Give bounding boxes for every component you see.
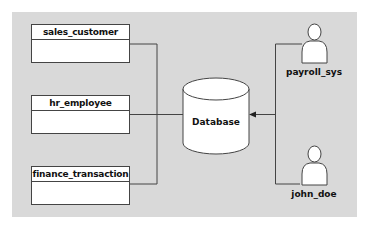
database-top-icon [183,78,249,100]
left-connectors [130,44,183,184]
table-title: finance_transaction [32,167,129,182]
right-connectors [254,44,302,184]
table-hr-employee[interactable]: hr_employee [31,95,130,134]
table-sales-customer[interactable]: sales_customer [31,24,130,63]
actor-label-payroll-sys: payroll_sys [286,67,342,77]
database-label: Database [192,117,240,127]
arrowhead-icon [249,112,256,118]
table-title: hr_employee [32,96,129,111]
connector-payroll-sys [276,44,303,184]
actor-label-john-doe: john_doe [291,189,336,199]
table-title: sales_customer [32,25,129,40]
database-cylinder[interactable] [183,78,249,154]
actor-payroll-sys-icon[interactable] [302,24,327,63]
table-finance-transaction[interactable]: finance_transaction [31,166,130,205]
actor-john-doe-icon[interactable] [302,146,327,185]
